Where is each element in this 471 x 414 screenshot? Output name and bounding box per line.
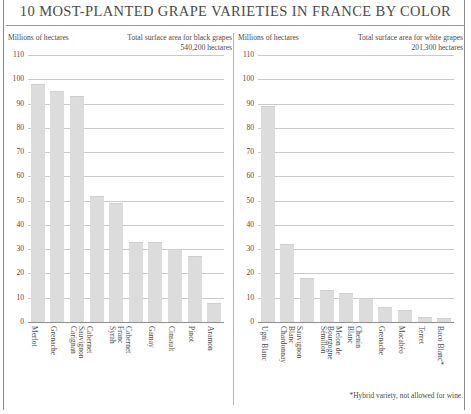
x-axis-label: CheninBlanc bbox=[347, 326, 362, 348]
x-axis-label: SauvignonBlanc bbox=[288, 326, 303, 359]
bar bbox=[359, 298, 373, 322]
title-divider bbox=[6, 25, 465, 26]
x-axis-label: Ugni Blanc bbox=[260, 326, 268, 361]
y-tick-white-50: 50 bbox=[236, 197, 254, 205]
total-area-black-line2: 540,200 hectares bbox=[82, 43, 232, 53]
bar bbox=[300, 278, 314, 322]
y-tick-black-100: 100 bbox=[6, 75, 24, 83]
plot-area-black: 1101009080706050403020100 bbox=[28, 55, 224, 322]
y-tick-black-60: 60 bbox=[6, 172, 24, 180]
x-axis-label: Pinot bbox=[187, 326, 195, 342]
x-axis-label: Chardonnay bbox=[280, 326, 288, 363]
y-tick-white-20: 20 bbox=[236, 269, 254, 277]
bar-cell bbox=[87, 55, 107, 322]
x-axis-label: Aramon bbox=[207, 326, 215, 351]
bar-cell bbox=[28, 55, 48, 322]
gridline-white-0 bbox=[258, 322, 454, 323]
bar bbox=[207, 303, 221, 322]
x-axis-label: Gamay bbox=[148, 326, 156, 348]
bar-cell bbox=[376, 55, 396, 322]
y-tick-white-80: 80 bbox=[236, 124, 254, 132]
bar-cell bbox=[204, 55, 224, 322]
y-tick-black-90: 90 bbox=[6, 100, 24, 108]
bar-cell bbox=[146, 55, 166, 322]
y-tick-white-40: 40 bbox=[236, 221, 254, 229]
bar bbox=[129, 242, 143, 322]
x-label-cell: SauvignonBlanc bbox=[297, 324, 317, 406]
y-tick-black-40: 40 bbox=[6, 221, 24, 229]
footnote: *Hybrid variety, not allowed for wine. bbox=[350, 391, 463, 400]
bar bbox=[50, 91, 64, 322]
bar-cell bbox=[336, 55, 356, 322]
x-axis-label: CabernetSauvignon bbox=[77, 326, 92, 359]
page-title: 10 MOST-PLANTED GRAPE VARIETIES IN FRANC… bbox=[0, 3, 471, 20]
x-axis-label: Syrah bbox=[109, 326, 117, 344]
x-axis-labels-black: MerlotGrenacheCarignanCabernetSauvignonS… bbox=[28, 324, 224, 406]
bar-cell bbox=[297, 55, 317, 322]
bar bbox=[261, 106, 275, 322]
x-axis-label: Terret bbox=[417, 326, 425, 344]
y-tick-black-30: 30 bbox=[6, 245, 24, 253]
x-axis-label: Cinsault bbox=[167, 326, 175, 351]
y-tick-white-110: 110 bbox=[236, 51, 254, 59]
total-area-white-line1: Total surface area for white grapes bbox=[313, 33, 463, 43]
bar bbox=[339, 293, 353, 322]
bars-black bbox=[28, 55, 224, 322]
bar bbox=[70, 96, 84, 322]
bar-cell bbox=[395, 55, 415, 322]
bar-cell bbox=[165, 55, 185, 322]
x-axis-label: Carignan bbox=[69, 326, 77, 354]
x-axis-label: Macabéo bbox=[397, 326, 405, 354]
bar-cell bbox=[126, 55, 146, 322]
x-axis-label: Melon deBourgogne bbox=[327, 326, 342, 360]
y-tick-white-60: 60 bbox=[236, 172, 254, 180]
bars-white bbox=[258, 55, 454, 322]
x-label-cell: Merlot bbox=[28, 324, 48, 406]
bar-cell bbox=[258, 55, 278, 322]
bar-cell bbox=[185, 55, 205, 322]
x-axis-label: Grenache bbox=[378, 326, 386, 355]
bar-cell bbox=[356, 55, 376, 322]
y-tick-black-80: 80 bbox=[6, 124, 24, 132]
bar bbox=[418, 317, 432, 322]
x-label-cell: CabernetSauvignon bbox=[87, 324, 107, 406]
bar bbox=[398, 310, 412, 322]
bar-cell bbox=[317, 55, 337, 322]
panel-black-grapes: Millions of hectares Total surface area … bbox=[6, 33, 234, 408]
x-axis-label: Merlot bbox=[30, 326, 38, 347]
y-tick-white-0: 0 bbox=[236, 318, 254, 326]
x-axis-label: Grenache bbox=[50, 326, 58, 355]
gridline-black-0 bbox=[28, 322, 224, 323]
panel-white-grapes: Millions of hectares Total surface area … bbox=[236, 33, 465, 408]
bar bbox=[280, 244, 294, 322]
x-label-cell: Cinsault bbox=[165, 324, 185, 406]
y-tick-black-110: 110 bbox=[6, 51, 24, 59]
x-axis-label: Baco Blanc* bbox=[437, 326, 445, 365]
x-label-cell: Pinot bbox=[185, 324, 205, 406]
bar-cell bbox=[415, 55, 435, 322]
y-tick-white-90: 90 bbox=[236, 100, 254, 108]
x-axis-label: CabernetFranc bbox=[117, 326, 132, 353]
total-area-black: Total surface area for black grapes 540,… bbox=[82, 33, 232, 52]
bar-cell bbox=[48, 55, 68, 322]
y-tick-white-70: 70 bbox=[236, 148, 254, 156]
y-tick-black-70: 70 bbox=[6, 148, 24, 156]
y-tick-black-10: 10 bbox=[6, 294, 24, 302]
y-tick-black-0: 0 bbox=[6, 318, 24, 326]
bar-cell bbox=[278, 55, 298, 322]
x-label-cell: Grenache bbox=[48, 324, 68, 406]
plot-area-white: 1101009080706050403020100 bbox=[258, 55, 454, 322]
bar bbox=[31, 84, 45, 322]
bar bbox=[168, 249, 182, 322]
bar bbox=[320, 290, 334, 322]
bar-cell bbox=[434, 55, 454, 322]
bar bbox=[109, 203, 123, 322]
units-label-white: Millions of hectares bbox=[238, 33, 299, 42]
y-tick-white-100: 100 bbox=[236, 75, 254, 83]
bar bbox=[378, 307, 392, 322]
y-tick-white-30: 30 bbox=[236, 245, 254, 253]
x-label-cell: Aramon bbox=[204, 324, 224, 406]
y-tick-white-10: 10 bbox=[236, 294, 254, 302]
bar bbox=[188, 256, 202, 322]
total-area-black-line1: Total surface area for black grapes bbox=[82, 33, 232, 43]
